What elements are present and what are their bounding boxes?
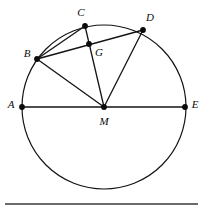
label-C: C — [77, 7, 84, 18]
segment-layer — [22, 26, 185, 107]
label-D: D — [146, 12, 154, 23]
point-B — [34, 56, 40, 62]
label-G: G — [95, 47, 103, 58]
label-E: E — [192, 99, 199, 110]
geometry-canvas — [0, 0, 204, 212]
label-A: A — [8, 99, 15, 110]
point-A — [19, 104, 25, 110]
geometry-figure: ABCDEMG — [0, 0, 204, 212]
segment-B-C — [37, 26, 85, 59]
label-M: M — [99, 116, 108, 127]
label-B: B — [24, 48, 31, 59]
point-C — [82, 23, 88, 29]
segment-M-D — [104, 30, 143, 107]
point-M — [101, 104, 107, 110]
point-G — [86, 41, 92, 47]
point-layer — [19, 23, 188, 110]
point-D — [140, 27, 146, 33]
point-E — [182, 104, 188, 110]
